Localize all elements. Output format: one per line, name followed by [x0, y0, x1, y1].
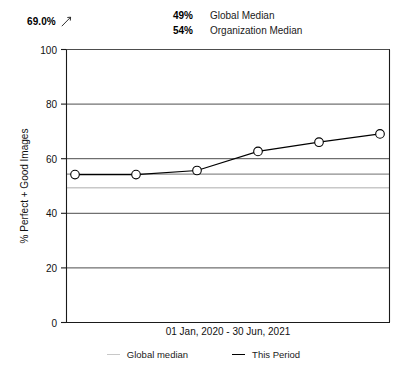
legend-label-this-period: This Period	[252, 349, 300, 360]
ytick-label-100: 100	[40, 45, 57, 56]
data-point-2[interactable]	[132, 170, 141, 179]
chart-legend: Global median This Period	[0, 349, 407, 360]
legend-item-this-period[interactable]: This Period	[232, 349, 300, 360]
data-point-6[interactable]	[376, 130, 385, 139]
gridlines	[66, 50, 390, 268]
y-axis-title: % Perfect + Good Images	[19, 129, 30, 244]
ytick-label-80: 80	[46, 99, 58, 110]
data-point-4[interactable]	[254, 147, 263, 156]
data-point-1[interactable]	[71, 170, 80, 179]
chart-plot-svg: 100 80 60 40 20 0 % Perfect + Good Image…	[0, 0, 407, 376]
ytick-label-60: 60	[46, 154, 58, 165]
data-point-5[interactable]	[315, 138, 324, 147]
axis-frame	[66, 50, 390, 323]
y-axis-ticks	[61, 50, 66, 323]
ytick-label-20: 20	[46, 263, 58, 274]
legend-item-global-median[interactable]: Global median	[107, 349, 188, 360]
legend-swatch-this-period	[232, 354, 245, 355]
series-markers-this-period	[71, 130, 385, 179]
data-point-3[interactable]	[193, 166, 202, 175]
x-axis-title: 01 Jan, 2020 - 30 Jun, 2021	[166, 326, 291, 337]
series-line-this-period	[75, 134, 380, 175]
legend-label-global-median: Global median	[127, 349, 188, 360]
line-chart: 100 80 60 40 20 0 % Perfect + Good Image…	[0, 0, 407, 376]
legend-swatch-global-median	[107, 354, 120, 355]
ytick-label-0: 0	[51, 318, 57, 329]
ytick-label-40: 40	[46, 208, 58, 219]
